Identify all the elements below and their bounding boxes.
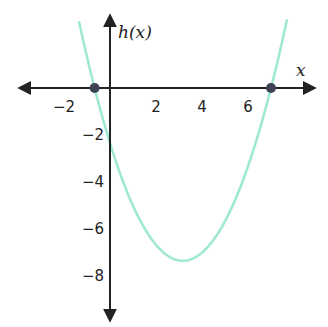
x-intercept-point	[266, 83, 276, 93]
y-axis-label: h(x)	[118, 22, 152, 42]
function-graph: h(x) x −2246 −2−4−6−8	[0, 0, 328, 327]
y-tick-label: −2	[82, 126, 104, 144]
y-tick-label: −4	[82, 173, 104, 191]
x-axis-label: x	[296, 60, 306, 80]
x-tick-label: 4	[197, 98, 207, 116]
x-tick-label: −2	[53, 98, 75, 116]
y-tick-labels: −2−4−6−8	[82, 126, 104, 285]
y-tick-label: −6	[82, 220, 104, 238]
y-tick-label: −8	[82, 267, 104, 285]
x-tick-label: 6	[243, 98, 253, 116]
x-tick-label: 2	[151, 98, 161, 116]
x-tick-labels: −2246	[53, 98, 253, 116]
x-intercept-point	[90, 83, 100, 93]
